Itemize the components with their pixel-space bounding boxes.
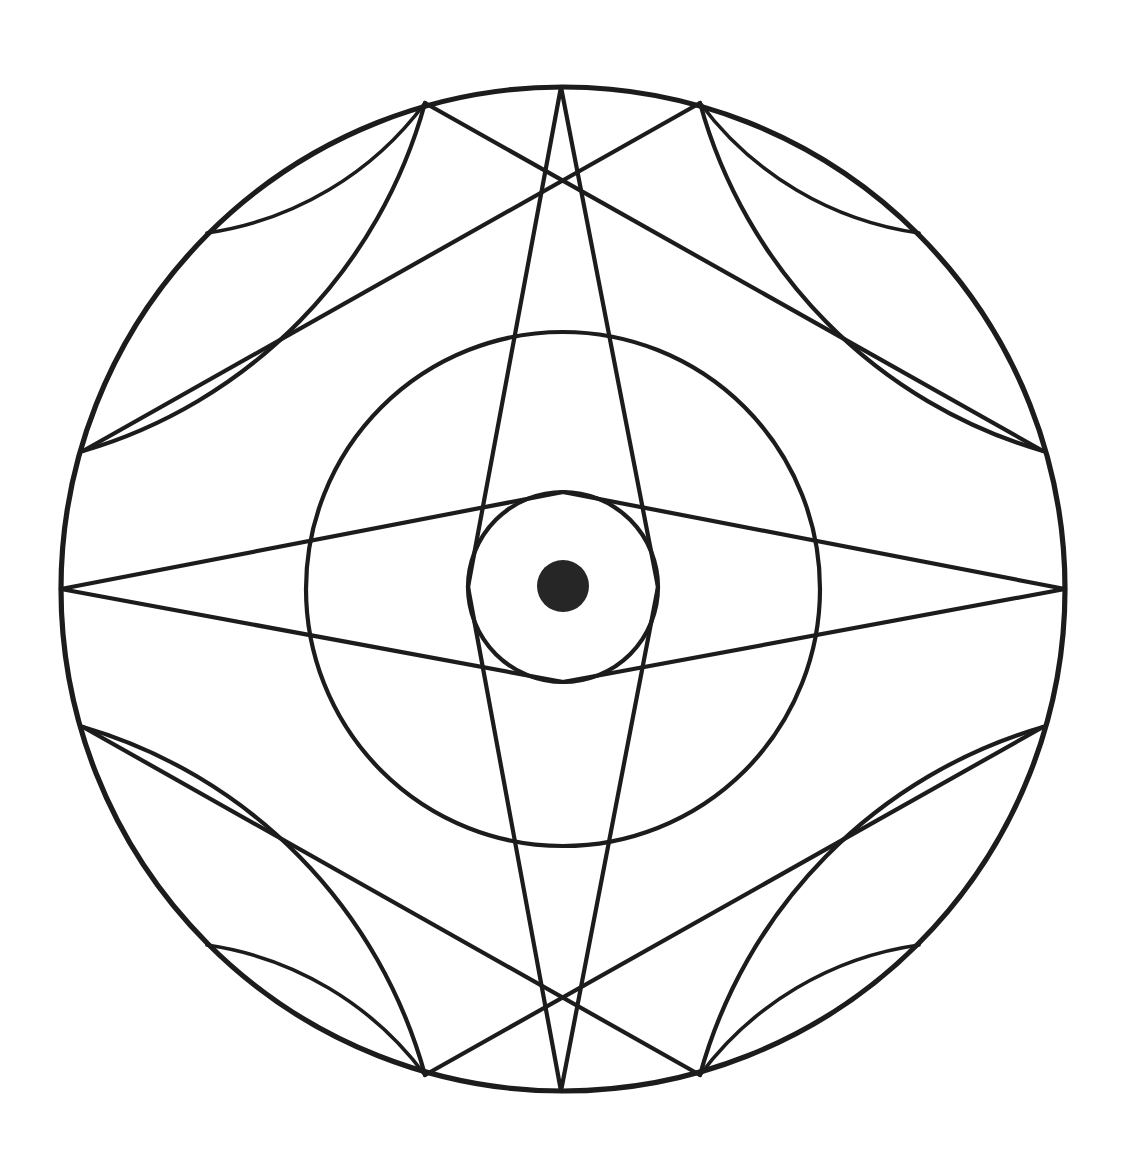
petal-arc-bottom-left-inner (207, 945, 425, 1075)
petal-arc-bottom-left-outer (83, 727, 425, 1075)
petal-arc-top-left-inner (207, 103, 425, 233)
figure-root (0, 0, 1127, 1168)
petal-arc-top-left-outer (83, 103, 425, 451)
center-dot (537, 560, 589, 612)
petal-arc-top-right-outer (700, 103, 1043, 451)
mandala-diagram (0, 0, 1127, 1168)
petal-arc-top-right-inner (700, 103, 919, 233)
petal-arc-bottom-right-inner (700, 945, 919, 1075)
petal-arc-bottom-right-outer (700, 727, 1043, 1075)
